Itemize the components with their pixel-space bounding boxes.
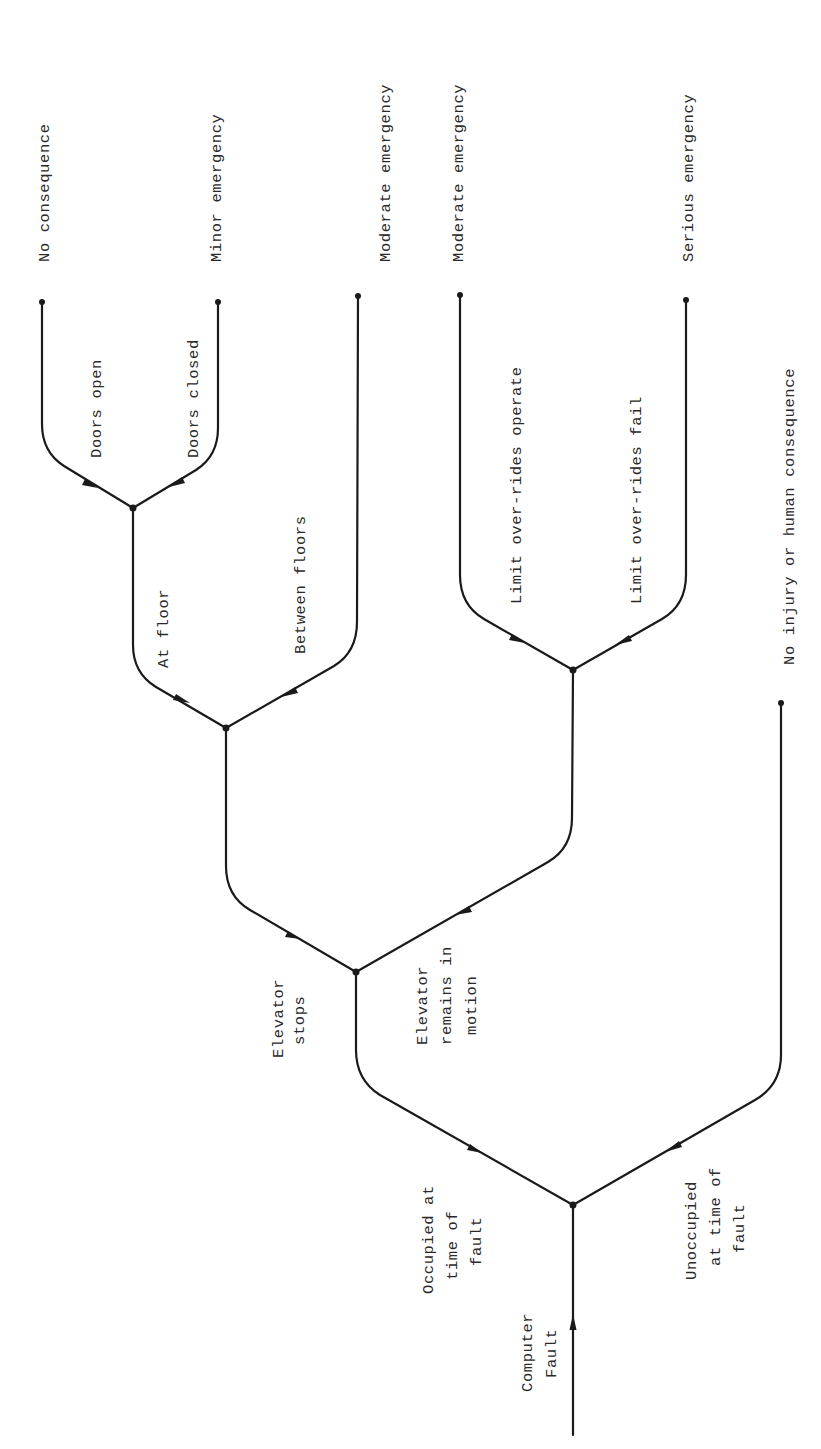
terminal-node (355, 293, 361, 299)
root-stem (570, 1205, 577, 1435)
svg-text:fault: fault (731, 1203, 749, 1253)
outcome-moderate-emergency-2: Moderate emergency (450, 84, 468, 262)
svg-text:Occupied at: Occupied at (420, 1185, 438, 1294)
terminal-node (215, 299, 221, 305)
terminal-node (778, 700, 784, 706)
label-at-floor: At floor (155, 589, 173, 668)
label-initiating-event: Computer Fault (519, 1313, 561, 1392)
branch-between-floors (226, 293, 361, 728)
label-unoccupied: Unoccupied at time of fault (683, 1167, 749, 1280)
label-occupied: Occupied at time of fault (420, 1185, 486, 1294)
event-tree-diagram: No consequence Minor emergency Moderate … (0, 0, 821, 1449)
initiating-event-line2: Fault (543, 1328, 561, 1378)
svg-text:stops: stops (291, 995, 309, 1045)
svg-text:Elevator: Elevator (414, 966, 432, 1045)
branch-unoccupied (573, 700, 784, 1205)
arrow-icon (281, 687, 298, 697)
stops-node (223, 725, 230, 732)
arrow-icon (455, 906, 472, 915)
arrow-icon (570, 1314, 577, 1330)
elevator-node (353, 969, 360, 976)
label-doors-open: Doors open (88, 359, 106, 458)
svg-text:time of: time of (444, 1211, 462, 1280)
branch-elevator-stops (226, 728, 356, 972)
label-elevator-motion: Elevator remains in motion (414, 946, 481, 1045)
svg-text:at time of: at time of (707, 1167, 725, 1266)
arrow-icon (509, 634, 525, 643)
svg-text:Elevator: Elevator (270, 979, 288, 1058)
svg-text:fault: fault (468, 1216, 486, 1266)
terminal-node (683, 297, 689, 303)
motion-node (570, 667, 577, 674)
arrow-icon (169, 477, 185, 487)
label-elevator-stops: Elevator stops (270, 979, 309, 1058)
floor-node (130, 505, 137, 512)
label-limit-fail: Limit over-rides fail (628, 396, 646, 604)
label-doors-closed: Doors closed (185, 339, 203, 458)
initiating-event-line1: Computer (519, 1313, 537, 1392)
arrow-icon (82, 479, 98, 488)
terminal-node (39, 299, 45, 305)
outcome-moderate-emergency-1: Moderate emergency (377, 84, 395, 262)
label-limit-operate: Limit over-rides operate (508, 366, 526, 604)
svg-text:motion: motion (463, 976, 481, 1035)
outcome-no-consequence: No consequence (36, 123, 54, 262)
branch-elevator-motion (356, 670, 573, 972)
branch-at-floor (133, 508, 226, 728)
outcome-serious-emergency: Serious emergency (680, 94, 698, 262)
terminal-node (457, 292, 463, 298)
branch-doors-open (39, 299, 133, 508)
svg-text:remains in: remains in (438, 946, 456, 1045)
arrow-icon (615, 635, 632, 645)
outcome-minor-emergency: Minor emergency (208, 113, 226, 262)
root-node (570, 1202, 577, 1209)
label-between-floors: Between floors (292, 515, 310, 654)
svg-text:Unoccupied: Unoccupied (683, 1181, 701, 1280)
outcome-no-injury: No injury or human consequence (781, 368, 799, 665)
branch-doors-closed (133, 299, 221, 508)
arrow-icon (665, 1141, 682, 1152)
